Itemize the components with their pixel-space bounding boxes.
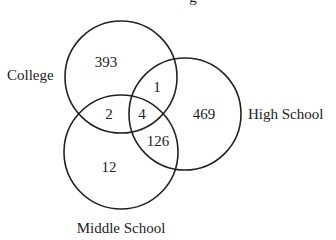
region-middle-only: 12 bbox=[102, 159, 117, 175]
label-middle-school: Middle School bbox=[77, 220, 166, 236]
label-high-school: High School bbox=[248, 106, 323, 122]
label-college: College bbox=[7, 67, 54, 83]
region-high-middle: 126 bbox=[147, 133, 170, 149]
title-fragment: g bbox=[189, 0, 197, 5]
region-college-high: 1 bbox=[153, 79, 161, 95]
college-circle bbox=[65, 21, 177, 133]
region-college-middle: 2 bbox=[105, 106, 113, 122]
high-school-circle bbox=[129, 58, 241, 170]
venn-diagram: g 393 1 2 4 469 126 12 College High Scho… bbox=[0, 0, 336, 240]
region-college-only: 393 bbox=[95, 54, 118, 70]
region-high-only: 469 bbox=[193, 106, 216, 122]
middle-school-circle bbox=[64, 95, 178, 209]
region-all-three: 4 bbox=[138, 106, 146, 122]
